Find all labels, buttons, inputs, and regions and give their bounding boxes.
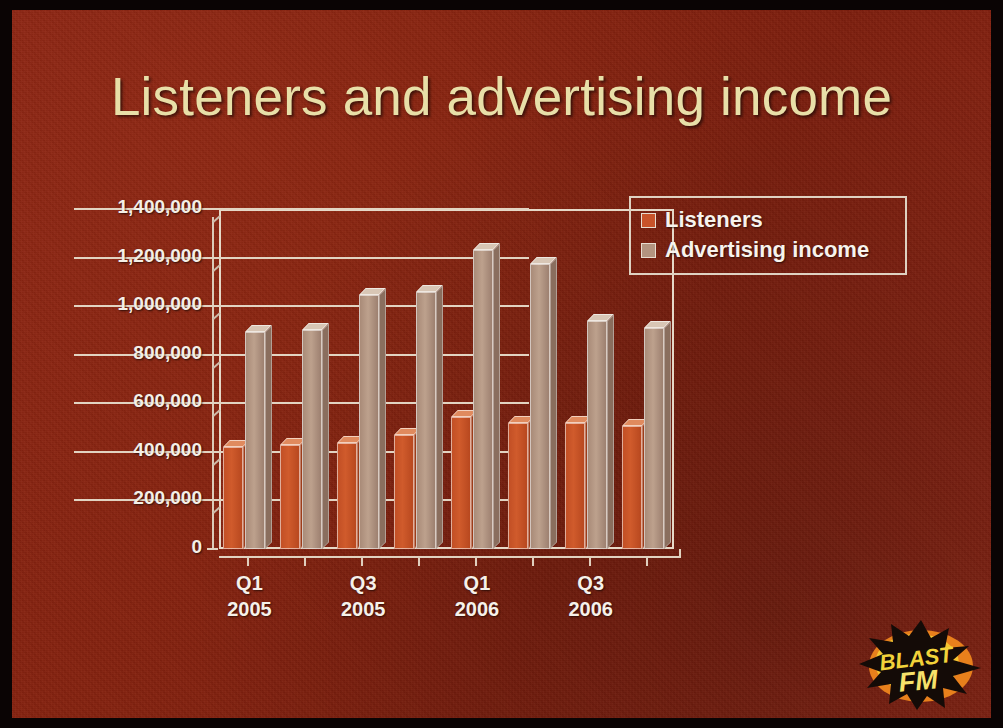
bar-income-q1-2006 xyxy=(473,250,493,549)
y-axis-tick-label: 200,000 xyxy=(74,487,202,509)
x-axis-tick-label: Q32005 xyxy=(308,570,418,622)
x-axis-quarter: Q3 xyxy=(308,570,418,596)
x-axis-tick-label: Q12005 xyxy=(194,570,304,622)
bar-front-face xyxy=(587,321,607,549)
x-axis-tick-mark xyxy=(361,558,363,566)
bar-front-face xyxy=(508,423,528,549)
y-axis-tick-mark xyxy=(207,499,218,501)
bar-listeners-q3-2005 xyxy=(337,443,357,549)
bar-front-face xyxy=(302,330,322,549)
y-axis-tick-label: 600,000 xyxy=(74,390,202,412)
bar-listeners-q4-2005 xyxy=(394,435,414,549)
y-axis-tick-mark xyxy=(207,305,218,307)
bar-listeners-q2-2005 xyxy=(280,445,300,549)
x-axis-tick-mark xyxy=(304,558,306,566)
bar-side-face xyxy=(493,244,500,549)
y-axis-tick-label: 1,400,000 xyxy=(74,196,202,218)
bar-front-face xyxy=(416,292,436,549)
bar-front-face xyxy=(223,447,243,549)
bar-front-face xyxy=(394,435,414,549)
y-axis-tick-mark xyxy=(207,451,218,453)
bar-listeners-q3-2006 xyxy=(565,423,585,549)
bar-front-face xyxy=(644,328,664,549)
x-axis-tick-mark xyxy=(532,558,534,566)
bar-income-q1-2005 xyxy=(245,332,265,549)
y-axis-tick-label: 800,000 xyxy=(74,342,202,364)
bar-listeners-q1-2006 xyxy=(451,417,471,549)
y-axis-tick-label: 1,200,000 xyxy=(74,245,202,267)
bar-front-face xyxy=(245,332,265,549)
bar-side-face xyxy=(436,285,443,549)
bar-side-face xyxy=(265,325,272,549)
bar-front-face xyxy=(622,426,642,549)
bar-front-face xyxy=(280,445,300,549)
page-title: Listeners and advertising income xyxy=(12,67,991,127)
bar-front-face xyxy=(451,417,471,549)
y-axis-tick-label: 0 xyxy=(74,536,202,558)
bar-side-face xyxy=(607,314,614,549)
x-axis-year: 2006 xyxy=(422,596,532,622)
bar-income-q3-2005 xyxy=(359,295,379,549)
bar-front-face xyxy=(359,295,379,549)
legend-swatch-icon xyxy=(641,243,656,258)
bar-income-q4-2006 xyxy=(644,328,664,549)
logo-line-2: FM xyxy=(897,664,939,697)
bar-income-q2-2005 xyxy=(302,330,322,549)
bar-front-face xyxy=(565,423,585,549)
x-axis-quarter: Q1 xyxy=(422,570,532,596)
bar-listeners-q4-2006 xyxy=(622,426,642,549)
y-axis-tick-label: 400,000 xyxy=(74,439,202,461)
y-axis-tick-mark xyxy=(207,354,218,356)
bar-front-face xyxy=(473,250,493,549)
bar-listeners-q2-2006 xyxy=(508,423,528,549)
x-axis-tick-mark xyxy=(646,558,648,566)
bar-income-q3-2006 xyxy=(587,321,607,549)
bar-front-face xyxy=(530,264,550,549)
slide: Listeners and advertising income 1,400,0… xyxy=(0,0,1003,728)
bar-side-face xyxy=(379,288,386,549)
legend-swatch-icon xyxy=(641,213,656,228)
bar-listeners-q1-2005 xyxy=(223,447,243,549)
y-axis-tick-label: 1,000,000 xyxy=(74,293,202,315)
x-axis-tick-mark xyxy=(247,558,249,566)
y-axis-tick-mark xyxy=(207,548,218,550)
y-axis-tick-mark xyxy=(207,257,218,259)
bar-income-q2-2006 xyxy=(530,264,550,549)
x-axis-year: 2005 xyxy=(194,596,304,622)
x-axis-quarter: Q1 xyxy=(194,570,304,596)
bar-income-q4-2005 xyxy=(416,292,436,549)
legend-item-advertising-income: Advertising income xyxy=(641,235,895,265)
legend-label: Listeners xyxy=(665,207,763,233)
x-axis-tick-mark xyxy=(418,558,420,566)
chart-legend: ListenersAdvertising income xyxy=(629,196,907,275)
plot-floor xyxy=(219,549,681,558)
x-axis-tick-mark xyxy=(475,558,477,566)
legend-label: Advertising income xyxy=(665,237,869,263)
y-axis-tick-mark xyxy=(207,208,218,210)
legend-item-listeners: Listeners xyxy=(641,205,895,235)
bar-front-face xyxy=(337,443,357,549)
x-axis-tick-label: Q12006 xyxy=(422,570,532,622)
x-axis-quarter: Q3 xyxy=(536,570,646,596)
y-axis-tick-mark xyxy=(207,402,218,404)
x-axis-tick-label: Q32006 xyxy=(536,570,646,622)
bar-side-face xyxy=(664,321,671,549)
x-axis-tick-mark xyxy=(589,558,591,566)
x-axis-year: 2006 xyxy=(536,596,646,622)
slide-canvas: Listeners and advertising income 1,400,0… xyxy=(12,10,991,718)
bar-side-face xyxy=(550,257,557,549)
bar-side-face xyxy=(322,324,329,549)
x-axis-year: 2005 xyxy=(308,596,418,622)
blast-fm-logo: BLAST FM xyxy=(857,618,985,710)
